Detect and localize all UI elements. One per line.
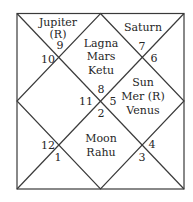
- planet-moon: Moon: [85, 132, 117, 145]
- sign-number-6: 6: [151, 52, 158, 65]
- sign-number-5: 5: [110, 95, 117, 108]
- planet-venus: Venus: [126, 104, 159, 117]
- planet-saturn: Saturn: [124, 21, 162, 34]
- sign-number-3: 3: [139, 151, 146, 164]
- lagna-label: Lagna: [84, 37, 119, 50]
- sign-number-7: 7: [139, 40, 146, 53]
- planet-ketu: Ketu: [88, 64, 114, 77]
- sign-number-8: 8: [98, 83, 105, 96]
- planet-mars: Mars: [87, 50, 116, 63]
- sign-number-10: 10: [41, 53, 55, 66]
- sign-number-9: 9: [57, 39, 64, 52]
- sign-number-1: 1: [55, 151, 62, 164]
- planet-sun: Sun: [132, 76, 154, 89]
- sign-number-12: 12: [41, 139, 55, 152]
- sign-number-11: 11: [79, 95, 93, 108]
- sign-number-4: 4: [149, 138, 156, 151]
- birth-chart: Jupiter (R) 9 10 Lagna Mars Ketu 8 Satur…: [0, 0, 193, 202]
- planet-rahu: Rahu: [86, 146, 115, 159]
- planet-mercury: Mer (R): [121, 90, 164, 103]
- sign-number-2: 2: [98, 107, 105, 120]
